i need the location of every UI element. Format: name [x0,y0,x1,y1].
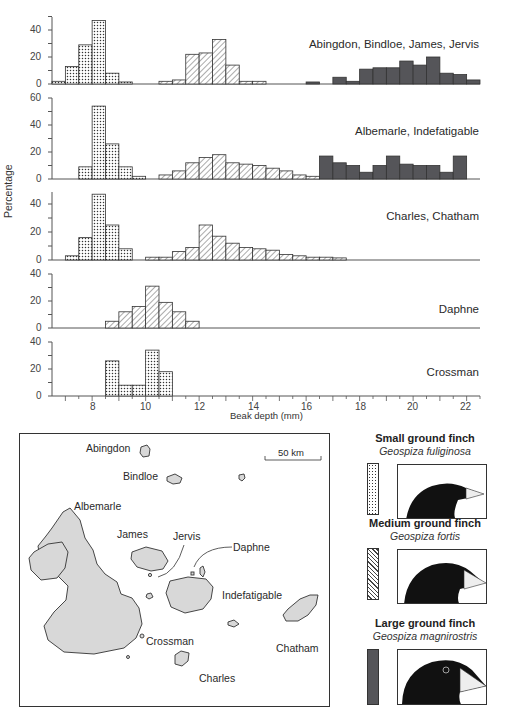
histogram-bar [132,385,145,396]
histogram-bar [400,164,413,179]
histogram-panel [48,342,480,396]
histogram-bar [333,77,346,84]
histogram-bar [306,257,319,260]
histogram-bar [79,238,92,260]
histogram-bar [346,81,359,84]
histogram-bar [226,65,239,84]
islet-small-2 [148,573,151,576]
histogram-bar [413,65,426,84]
histogram-bar [373,68,386,84]
map-svg [20,434,329,706]
island-jervis [146,593,153,599]
histogram-bar [279,171,292,179]
x-tick: 22 [460,401,471,412]
y-tick: 0 [36,390,42,401]
swatch-hatched [367,548,379,600]
histogram-bar [186,247,199,260]
islet-small [127,656,130,659]
histogram-bar [119,167,132,179]
histogram-bar [279,254,292,260]
histogram-bar [106,361,119,396]
map-label-bindloe: Bindloe [123,470,158,482]
histogram-bar [467,80,480,84]
map-label-abingdon: Abingdon [86,442,130,454]
histogram-bar [146,286,159,328]
histogram-bar [360,69,373,84]
histogram-bar [386,68,399,84]
y-tick: 20 [30,363,41,374]
histogram-bar [239,81,252,84]
histogram-bar [266,250,279,260]
histogram-bar [159,302,172,328]
legend-common-name: Medium ground finch [345,517,505,529]
histogram-bar [226,243,239,260]
histogram-bar [65,256,78,260]
histogram-bar [213,236,226,260]
y-tick: 40 [30,198,41,209]
y-tick: 60 [30,92,41,103]
map-label-albemarle: Albemarle [74,500,121,512]
island-barrington [228,620,239,627]
panel-label-albemarle-group: Albemarle, Indefatigable [355,125,479,137]
x-tick: 18 [355,401,366,412]
histogram-bar [440,172,453,179]
island-bindloe [167,474,182,484]
histogram-bar [320,156,333,179]
histogram-bar [400,61,413,84]
histogram-bar [440,73,453,84]
histogram-bar [253,249,266,260]
y-tick: 20 [30,51,41,62]
x-axis-label: Beak depth (mm) [230,410,303,421]
histogram-bar [119,312,132,328]
histogram-bar [360,172,373,179]
histogram-panel [48,98,480,179]
island-charles [175,651,189,666]
histogram-panel [48,274,480,328]
histogram-bar [106,225,119,260]
histogram-bar [199,53,212,84]
x-tick: 10 [140,401,151,412]
island-tower [239,474,245,481]
histogram-bar [159,257,172,260]
histogram-bar [213,155,226,179]
legend-scientific-name: Geospiza fuliginosa [345,445,505,457]
histogram-bar [427,166,440,180]
histogram-bar [253,166,266,180]
legend-common-name: Small ground finch [345,432,505,444]
islet-daphne-square [191,572,194,575]
map-label-indefatigable: Indefatigable [222,589,282,601]
histogram-bar [333,163,346,179]
histogram-bar [346,166,359,180]
histogram-bar [266,168,279,179]
island-abingdon [140,445,150,457]
panel-label-crossman: Crossman [427,366,479,378]
histogram-bar [172,80,185,84]
bird-illustration-medium-finch [397,549,487,604]
histogram-bar [132,306,145,328]
histogram-bar [52,81,65,84]
histogram-bar [293,256,306,260]
histogram-bar [106,144,119,179]
galapagos-map: 50 km Abingdon Bindloe Albemarle James J… [19,433,330,707]
panel-label-charles-chatham: Charles, Chatham [386,210,479,222]
x-tick: 8 [90,401,96,412]
histogram-bar [132,176,145,179]
histogram-panel [48,17,480,85]
histogram-bar [159,81,172,84]
island-james [131,547,168,571]
y-tick: 20 [30,146,41,157]
histogram-bar [146,350,159,396]
histogram-bar [159,372,172,396]
histogram-bar [79,167,92,179]
histogram-bar [186,54,199,84]
histogram-bar [453,156,466,179]
histogram-bar [413,166,426,180]
histogram-bar [239,164,252,179]
island-indefatigable [166,577,213,613]
histogram-bar [92,21,105,84]
y-tick: 40 [30,336,41,347]
histogram-bar [172,171,185,179]
histogram-bar [453,75,466,84]
histogram-bar [306,82,319,84]
histogram-bar [92,194,105,260]
